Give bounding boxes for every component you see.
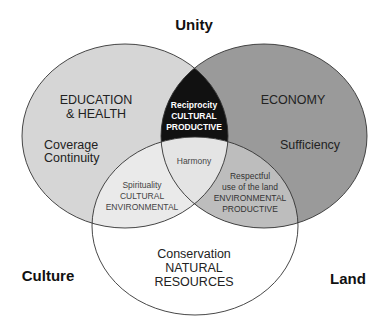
- bottom-set-title-line3: RESOURCES: [154, 275, 233, 289]
- left-set-subtitle-line1: Coverage: [44, 138, 98, 152]
- respectful-line4: PRODUCTIVE: [222, 204, 278, 214]
- respectful-line3: ENVIRONMENTAL: [214, 193, 287, 203]
- reciprocity-line2: CULTURAL: [171, 111, 217, 121]
- left-set-title-line1: EDUCATION: [60, 93, 133, 107]
- spirituality-line2: CULTURAL: [120, 191, 165, 201]
- left-set-subtitle-line2: Continuity: [44, 151, 100, 165]
- spirituality-line1: Spirituality: [122, 180, 162, 190]
- reciprocity-line1: Reciprocity: [171, 100, 218, 110]
- right-set-subtitle: Sufficiency: [280, 138, 341, 152]
- venn-diagram: Unity Culture Land EDUCATION & HEALTH Co…: [0, 0, 385, 333]
- bottom-set-title-line1: Conservation: [157, 247, 231, 261]
- left-set-title-line2: & HEALTH: [66, 107, 126, 121]
- label-culture: Culture: [22, 267, 75, 284]
- label-land: Land: [330, 270, 366, 287]
- respectful-line2: use of the land: [222, 182, 278, 192]
- right-set-title: ECONOMY: [261, 93, 326, 107]
- reciprocity-line3: PRODUCTIVE: [166, 122, 222, 132]
- bottom-set-title-line2: NATURAL: [165, 261, 222, 275]
- harmony-label: Harmony: [177, 156, 212, 166]
- spirituality-line3: ENVIRONMENTAL: [106, 202, 179, 212]
- label-unity: Unity: [175, 16, 213, 33]
- respectful-line1: Respectful: [230, 171, 270, 181]
